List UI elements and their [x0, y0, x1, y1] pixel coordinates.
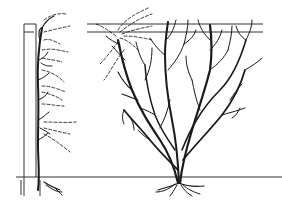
pruning-illustration	[0, 0, 282, 210]
pruned-shoots-left	[42, 14, 76, 152]
freestanding-bush	[106, 20, 262, 196]
